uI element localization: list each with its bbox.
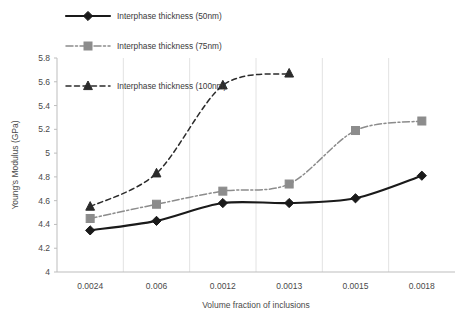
data-point-square bbox=[285, 180, 293, 188]
y-tick-label: 4.4 bbox=[38, 219, 50, 229]
line-chart: 44.24.44.64.855.25.45.65.8 0.00240.0060.… bbox=[0, 0, 467, 324]
y-tick-label: 4.2 bbox=[38, 243, 50, 253]
y-tick-label: 4 bbox=[45, 267, 50, 277]
y-tick-label: 4.6 bbox=[38, 196, 50, 206]
y-tick-label: 5.2 bbox=[38, 124, 50, 134]
x-tick-label: 0.0012 bbox=[210, 281, 236, 291]
y-axis-title: Young's Modulus (GPa) bbox=[10, 120, 20, 209]
chart-background bbox=[0, 0, 467, 324]
x-tick-label: 0.0015 bbox=[343, 281, 369, 291]
data-point-square bbox=[86, 215, 94, 223]
legend-label-1: Interphase thickness (50nm) bbox=[117, 11, 222, 21]
chart-container: 44.24.44.64.855.25.45.65.8 0.00240.0060.… bbox=[0, 0, 467, 324]
x-axis-title: Volume fraction of inclusions bbox=[202, 300, 310, 310]
data-point-square bbox=[153, 200, 161, 208]
data-point-square bbox=[84, 42, 92, 50]
legend-label-2: Interphase thickness (75nm) bbox=[117, 41, 222, 51]
data-point-square bbox=[352, 127, 360, 135]
y-tick-label: 5.8 bbox=[38, 53, 50, 63]
x-tick-label: 0.0018 bbox=[409, 281, 435, 291]
data-point-square bbox=[219, 187, 227, 195]
x-tick-label: 0.0024 bbox=[77, 281, 103, 291]
y-tick-label: 5.4 bbox=[38, 101, 50, 111]
data-point-square bbox=[418, 117, 426, 125]
x-tick-label: 0.006 bbox=[146, 281, 168, 291]
y-tick-label: 5 bbox=[45, 148, 50, 158]
x-tick-label: 0.0013 bbox=[276, 281, 302, 291]
y-tick-label: 5.6 bbox=[38, 77, 50, 87]
legend-label-3: Interphase thickness (100nm) bbox=[117, 81, 227, 91]
y-tick-label: 4.8 bbox=[38, 172, 50, 182]
